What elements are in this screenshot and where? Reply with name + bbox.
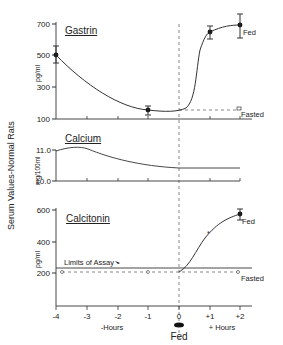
calcitonin-ytick: 400 xyxy=(37,238,51,247)
calcitonin-fed-label: Fed xyxy=(242,217,255,226)
meal-marker-icon xyxy=(174,323,184,328)
calcitonin-ylabel: pg/ml xyxy=(34,250,42,268)
x-tick: -4 xyxy=(52,312,60,321)
calcitonin-ytick: 600 xyxy=(37,206,51,215)
x-plus-hours-label: + Hours xyxy=(209,323,236,332)
x-tick: -1 xyxy=(144,312,152,321)
gastrin-ytick: 100 xyxy=(37,115,51,124)
y-super-label: Serum Values-Normal Rats xyxy=(6,121,16,230)
calcitonin-panel: 600 400 200 pg/ml Calcitonin Limits of A… xyxy=(34,206,264,342)
limits-of-assay-label: Limits of Assay xyxy=(64,258,114,267)
calcitonin-fasted-label: Fasted xyxy=(241,274,264,283)
gastrin-title: Gastrin xyxy=(65,25,97,36)
gastrin-ytick: 500 xyxy=(37,51,51,60)
calcium-panel: 11.0 10.0 mg/100ml Calcium xyxy=(34,133,240,186)
calcitonin-title: Calcitonin xyxy=(66,213,110,224)
calcium-ytick: 11.0 xyxy=(36,146,52,155)
x-tick: +2 xyxy=(235,312,245,321)
calcitonin-ytick: 200 xyxy=(37,269,51,278)
x-tick: -2 xyxy=(114,312,122,321)
calcium-title: Calcium xyxy=(65,133,101,144)
calcium-ylabel: mg/100ml xyxy=(34,156,42,185)
x-tick: -3 xyxy=(83,312,91,321)
gastrin-panel: 700 500 300 100 pg/ml Gastrin Fasted Fed xyxy=(34,14,264,340)
gastrin-ytick: 300 xyxy=(37,83,51,92)
x-minus-hours-label: -Hours xyxy=(101,323,124,332)
significance-asterisk: * xyxy=(207,230,210,237)
fed-event-label: Fed xyxy=(170,331,187,342)
gastrin-ylabel: pg/ml xyxy=(34,64,42,82)
figure: Serum Values-Normal Rats 700 500 300 100… xyxy=(0,0,283,345)
gastrin-fasted-label: Fasted xyxy=(241,110,264,119)
x-tick: +1 xyxy=(205,312,215,321)
gastrin-fed-label: Fed xyxy=(243,28,256,37)
x-tick: 0 xyxy=(177,312,182,321)
gastrin-ytick: 700 xyxy=(37,20,51,29)
